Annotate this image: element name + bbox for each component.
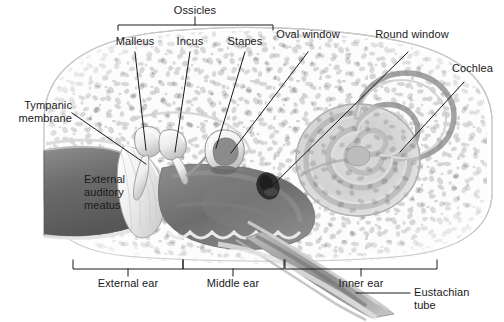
modiolus (346, 146, 370, 166)
label-external-ear: External ear (98, 277, 159, 290)
ear-anatomy-figure: Ossicles Malleus Incus Stapes Oval windo… (0, 0, 504, 322)
external-ear-bracket (73, 260, 183, 269)
label-eustachian-tube: Eustachian tube (414, 286, 469, 312)
label-inner-ear: Inner ear (339, 277, 384, 290)
label-stapes: Stapes (228, 35, 263, 48)
stapes-foramen (213, 138, 238, 165)
ear-cross-section-illustration (0, 0, 504, 322)
label-oval-window: Oval window (276, 28, 339, 41)
label-external-auditory-meatus: External auditory meatus (84, 173, 125, 212)
oval-window (211, 166, 237, 175)
label-middle-ear: Middle ear (207, 277, 259, 290)
label-incus: Incus (177, 35, 204, 48)
stapes-bone (205, 130, 244, 171)
label-round-window: Round window (375, 28, 448, 41)
malleus-head (135, 126, 163, 157)
label-tympanic-membrane: Tympanic membrane (2, 99, 72, 125)
incus-body (159, 130, 186, 160)
oval-window-opening (211, 166, 237, 175)
label-malleus: Malleus (116, 35, 155, 48)
label-cochlea: Cochlea (452, 62, 493, 75)
label-ossicles: Ossicles (174, 4, 216, 17)
